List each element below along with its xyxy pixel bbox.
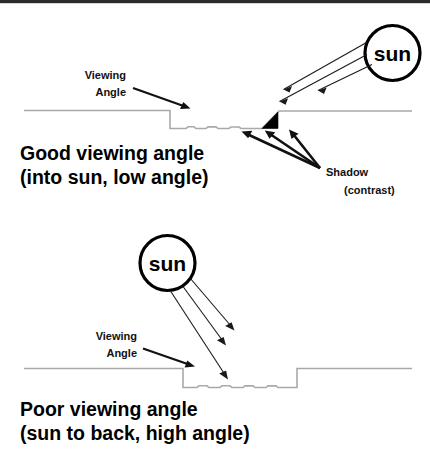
terrain-profile-good xyxy=(24,111,412,129)
shadow-wedge xyxy=(262,112,278,129)
terrain-profile-poor xyxy=(24,369,412,388)
viewing-angle-arrow-poor xyxy=(143,349,195,368)
sun-label-poor: sun xyxy=(149,252,186,275)
panel-poor-viewing-angle: sun Viewing Angle Poor viewing angle (su… xyxy=(20,236,412,445)
sun-rays-good xyxy=(280,43,373,105)
caption-poor-line1: Poor viewing angle xyxy=(20,398,198,420)
viewing-angle-label-good-line1: Viewing xyxy=(85,69,126,81)
panel-good-viewing-angle: sun Viewing Angle xyxy=(20,26,420,197)
shadow-callout-arrows xyxy=(242,130,321,169)
caption-poor-line2: (sun to back, high angle) xyxy=(20,422,250,444)
viewing-angle-arrow-good xyxy=(133,88,191,109)
shadow-label-line2: (contrast) xyxy=(344,184,395,196)
viewing-angle-label-poor-line1: Viewing xyxy=(96,330,137,342)
viewing-angle-label-good-line2: Angle xyxy=(95,86,126,98)
sun-label-good: sun xyxy=(374,42,411,65)
viewing-angle-label-poor-line2: Angle xyxy=(106,347,137,359)
caption-good-line2: (into sun, low angle) xyxy=(20,166,209,188)
top-border-bar xyxy=(0,0,430,3)
sun-rays-poor xyxy=(171,278,235,380)
diagram-sun-viewing-angle: sun Viewing Angle xyxy=(0,0,430,461)
caption-good-line1: Good viewing angle xyxy=(20,142,204,164)
shadow-label-line1: Shadow xyxy=(326,166,369,178)
